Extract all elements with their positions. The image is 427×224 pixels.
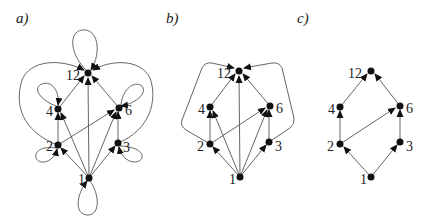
edge-1-3	[89, 146, 115, 178]
node-6	[397, 103, 404, 110]
edge-2-6	[210, 108, 265, 144]
edge-1-12	[239, 76, 240, 177]
panel-a-label: a)	[16, 10, 29, 27]
node-3	[397, 139, 404, 146]
node-6	[116, 105, 123, 112]
edge-1-3	[240, 145, 266, 177]
label-3: 3	[123, 140, 130, 155]
panel-c-edges	[340, 74, 400, 177]
label-12: 12	[217, 66, 231, 81]
label-2: 2	[46, 139, 53, 154]
panel-c: c) 1 2 3 4 6 12	[297, 10, 413, 187]
edge-3-12	[93, 63, 153, 143]
panel-b: b) 1 2 3 4 6	[166, 10, 294, 187]
edge-1-4	[61, 113, 89, 178]
node-1	[86, 175, 93, 182]
node-1	[237, 174, 244, 181]
edge-1-6	[240, 110, 267, 177]
label-12: 12	[348, 66, 362, 81]
node-4	[337, 104, 344, 111]
panel-b-edges	[182, 63, 295, 177]
node-3	[115, 140, 122, 147]
edge-6-12	[243, 74, 270, 106]
label-6: 6	[125, 103, 132, 118]
node-2	[337, 141, 344, 148]
panel-b-label: b)	[166, 10, 179, 27]
node-2	[207, 141, 214, 148]
edge-6-12	[375, 74, 400, 106]
loop-12	[73, 30, 97, 71]
node-12	[236, 68, 243, 75]
panel-c-label: c)	[297, 10, 309, 27]
label-4: 4	[46, 104, 53, 119]
divisor-diagrams: a)	[0, 0, 427, 224]
node-3	[266, 139, 273, 146]
edge-6-12	[92, 76, 119, 108]
label-4: 4	[198, 102, 205, 117]
node-4	[55, 106, 62, 113]
label-3: 3	[406, 139, 413, 154]
edge-2-6	[340, 108, 395, 144]
edge-1-6	[89, 112, 116, 178]
label-1: 1	[360, 172, 367, 187]
label-4: 4	[328, 102, 335, 117]
node-6	[267, 103, 274, 110]
edge-1-12	[88, 78, 89, 178]
panel-a-edges	[19, 30, 153, 215]
label-1: 1	[229, 172, 236, 187]
edge-1-3	[371, 145, 397, 177]
node-2	[55, 142, 62, 149]
node-12	[85, 70, 92, 77]
label-1: 1	[78, 172, 85, 187]
node-12	[368, 68, 375, 75]
label-6: 6	[276, 101, 283, 116]
edge-2-6	[58, 110, 114, 145]
label-3: 3	[275, 139, 282, 154]
node-1	[368, 174, 375, 181]
label-6: 6	[406, 101, 413, 116]
node-4	[207, 104, 214, 111]
label-2: 2	[327, 139, 334, 154]
panel-a: a)	[16, 10, 153, 215]
loop-4	[38, 83, 59, 106]
label-12: 12	[66, 68, 80, 83]
edge-1-4	[213, 111, 240, 177]
label-2: 2	[197, 139, 204, 154]
